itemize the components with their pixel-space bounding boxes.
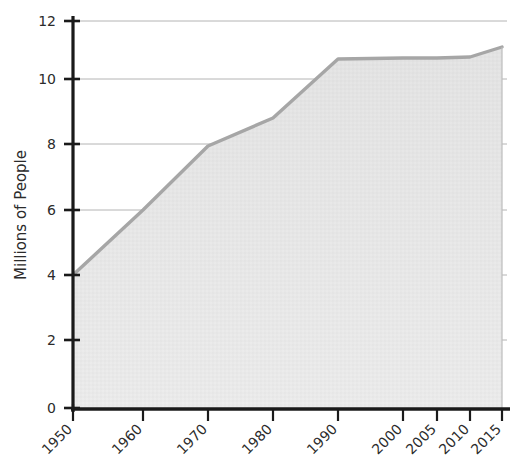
chart-canvas: 12 10 8 6 4 2 0 1950 1960 1970 1980 199: [0, 0, 524, 475]
y-label-6: 6: [47, 202, 56, 218]
y-label-2: 2: [47, 332, 56, 348]
y-label-10: 10: [38, 71, 56, 87]
y-label-8: 8: [47, 136, 56, 152]
y-label-12: 12: [38, 13, 56, 29]
y-label-0: 0: [47, 400, 56, 416]
y-label-4: 4: [47, 267, 56, 283]
y-axis-title: Millions of People: [12, 150, 30, 280]
population-area-chart: 12 10 8 6 4 2 0 1950 1960 1970 1980 199: [0, 0, 524, 475]
